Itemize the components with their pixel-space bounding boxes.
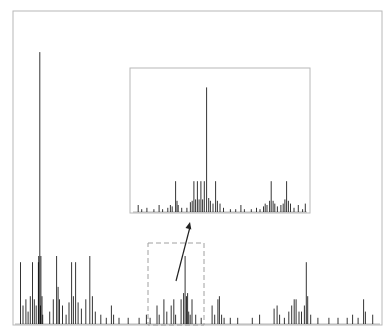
zoom-region-box	[148, 243, 204, 325]
arrow-head-icon	[186, 222, 192, 230]
inset-plot	[130, 68, 310, 213]
arrow-icon	[176, 227, 190, 281]
inset-plot-frame	[130, 68, 310, 213]
spectrum-chart	[0, 0, 392, 336]
zoom-arrow	[176, 222, 191, 281]
